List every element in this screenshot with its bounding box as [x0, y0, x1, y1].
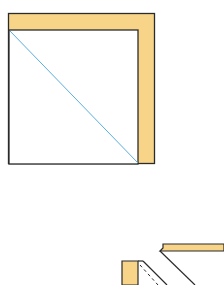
top-slab: [160, 244, 224, 251]
slab-diagonal-edge: [160, 251, 195, 285]
top-figure: [9, 14, 155, 165]
left-block: [122, 261, 138, 285]
block-diagonal-edge: [143, 261, 167, 285]
bottom-figure: [122, 244, 224, 285]
dashed-hidden-edge: [140, 265, 158, 285]
diagram-canvas: [0, 0, 224, 285]
